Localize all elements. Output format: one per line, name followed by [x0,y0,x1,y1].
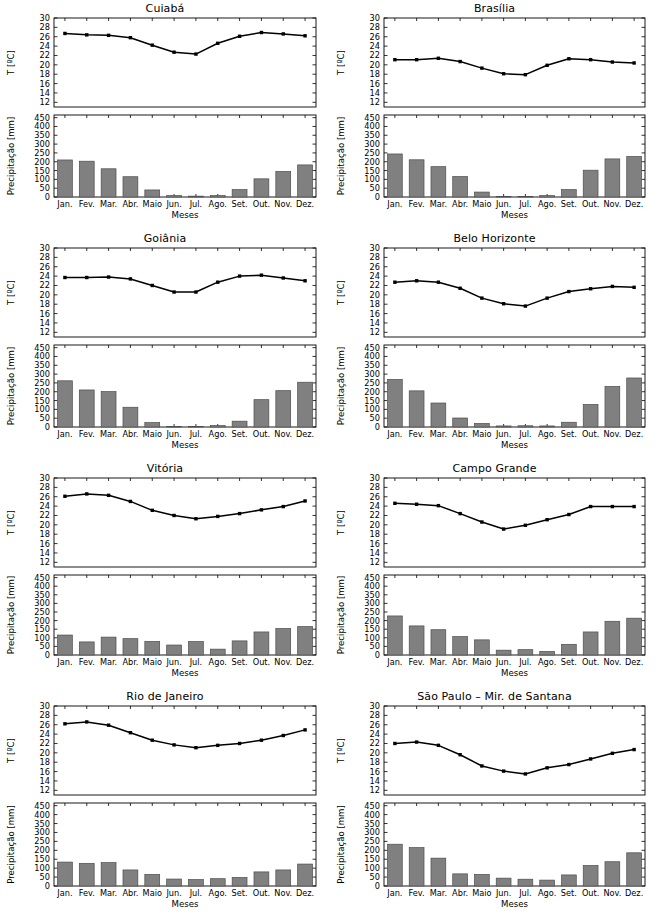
precipitation-bar [583,632,598,655]
precip-tick-label: 300 [34,827,50,837]
precip-tick-label: 100 [34,404,50,414]
month-tick-label: Jul. [518,429,531,439]
month-tick-label: Dez. [625,657,643,667]
precip-tick-label: 400 [34,351,50,361]
month-tick-label: Nov. [274,657,292,667]
temp-tick-label: 26 [40,32,50,42]
temperature-point [238,35,241,38]
precipitation-bar [605,862,620,886]
precipitation-subplot: 050100150200250300350400450Jan.Fev.Mar.A… [6,113,316,220]
temperature-point [393,502,396,505]
precip-tick-label: 0 [45,422,50,432]
month-tick-label: Jun. [165,888,181,898]
precipitation-bar [453,874,468,886]
temp-tick-label: 26 [370,720,380,730]
temperature-point [458,60,461,63]
month-tick-label: Fev. [79,888,95,898]
precipitation-bar [298,864,313,886]
temp-tick-label: 24 [370,501,380,511]
month-tick-label: Jun. [495,657,511,667]
month-tick-label: Fev. [409,429,425,439]
precipitation-bar [453,177,468,197]
temperature-point [63,32,66,35]
month-tick-label: Jul. [189,657,202,667]
temp-tick-label: 14 [40,88,50,98]
precipitation-bar [276,171,291,197]
temp-tick-label: 28 [40,710,50,720]
precip-tick-label: 250 [34,378,50,388]
temperature-point [437,504,440,507]
x-axis-label: Meses [172,899,199,909]
precip-tick-label: 0 [375,192,380,202]
month-tick-label: Dez. [625,888,643,898]
temperature-line [65,275,305,292]
temperature-point [216,515,219,518]
precipitation-bar [298,627,313,655]
precipitation-bar [431,858,446,886]
temperature-point [216,42,219,45]
month-tick-label: Maio [143,199,162,209]
temperature-point [151,43,154,46]
precipitation-bar [210,649,225,655]
month-tick-label: Nov. [603,199,621,209]
precipitation-bar [496,426,511,427]
panel-plot: 12141618202224262830T [ºC]05010015020025… [330,460,659,688]
temperature-point [85,720,88,723]
temperature-point [611,752,614,755]
precipitation-bar [254,179,269,197]
month-tick-label: Nov. [274,429,292,439]
temperature-point [172,50,175,53]
precip-tick-label: 50 [370,872,380,882]
temperature-point [480,764,483,767]
temperature-point [611,285,614,288]
precipitation-bar [188,426,203,427]
temperature-axis-label: T [ºC] [6,738,16,764]
precipitation-bar [145,874,160,886]
temp-tick-label: 24 [370,729,380,739]
temp-tick-label: 14 [370,548,380,558]
precip-tick-label: 150 [34,396,50,406]
temperature-point [85,33,88,36]
month-tick-label: Mar. [100,888,117,898]
precip-tick-label: 100 [34,174,50,184]
precipitation-bar [627,853,642,886]
month-tick-label: Jul. [518,888,531,898]
temperature-point [63,495,66,498]
precip-tick-label: 50 [40,641,50,651]
temp-tick-label: 20 [370,60,380,70]
temperature-point [303,34,306,37]
temperature-point [589,505,592,508]
temp-tick-label: 26 [370,262,380,272]
temperature-point [303,499,306,502]
temperature-axis-label: T [ºC] [6,510,16,536]
precipitation-bar [583,170,598,197]
temperature-subplot: 12141618202224262830T [ºC] [6,701,316,795]
precipitation-bar [409,391,424,427]
temp-tick-label: 22 [370,280,380,290]
precipitation-axis-label: Precipitação [mm] [6,805,16,884]
temperature-point [238,512,241,515]
precip-tick-label: 100 [34,633,50,643]
precipitation-bar [605,159,620,197]
temperature-point [632,505,635,508]
precip-tick-label: 400 [364,581,380,591]
temperature-point [260,31,263,34]
temp-tick-label: 16 [370,79,380,89]
temperature-point [502,769,505,772]
temp-tick-label: 16 [40,539,50,549]
precipitation-bar [57,160,72,197]
precipitation-subplot: 050100150200250300350400450Jan.Fev.Mar.A… [6,801,316,909]
precip-tick-label: 100 [364,174,380,184]
temp-tick-label: 28 [40,252,50,262]
month-tick-label: Set. [561,199,577,209]
temperature-axis-label: T [ºC] [336,738,346,764]
temp-tick-label: 30 [40,243,50,253]
precipitation-axis-label: Precipitação [mm] [336,347,346,426]
temp-tick-label: 12 [370,557,380,567]
precip-tick-label: 450 [364,801,380,811]
temperature-point [63,276,66,279]
temp-tick-label: 18 [370,69,380,79]
precipitation-subplot: 050100150200250300350400450Jan.Fev.Mar.A… [336,801,645,909]
precipitation-bar [57,862,72,886]
precip-tick-label: 250 [34,836,50,846]
